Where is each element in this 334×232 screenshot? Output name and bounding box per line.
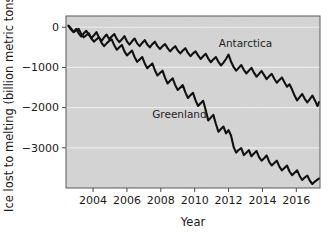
chart-figure: 0−1000−2000−3000 20042006200820102012201… [0, 0, 334, 232]
ice-loss-line-chart: 0−1000−2000−3000 20042006200820102012201… [0, 0, 334, 232]
x-axis-title: Year [180, 215, 206, 229]
annotation-antarctica: Antarctica [219, 37, 273, 49]
x-tick-label-1: 2006 [113, 194, 141, 207]
x-tick-label-0: 2004 [79, 194, 107, 207]
y-tick-label-3: −3000 [22, 142, 59, 155]
y-axis-title: Ice lost to melting (billion metric tons… [2, 0, 16, 212]
x-tick-label-4: 2012 [215, 194, 243, 207]
plot-area-texture [66, 16, 320, 188]
x-tick-label-6: 2016 [282, 194, 310, 207]
y-tick-label-0: 0 [52, 21, 59, 34]
y-tick-label-1: −1000 [22, 61, 59, 74]
annotation-greenland: Greenland [152, 108, 206, 120]
y-tick-label-2: −2000 [22, 101, 59, 114]
x-tick-label-3: 2010 [181, 194, 209, 207]
x-tick-label-5: 2014 [248, 194, 276, 207]
x-tick-label-2: 2008 [147, 194, 175, 207]
